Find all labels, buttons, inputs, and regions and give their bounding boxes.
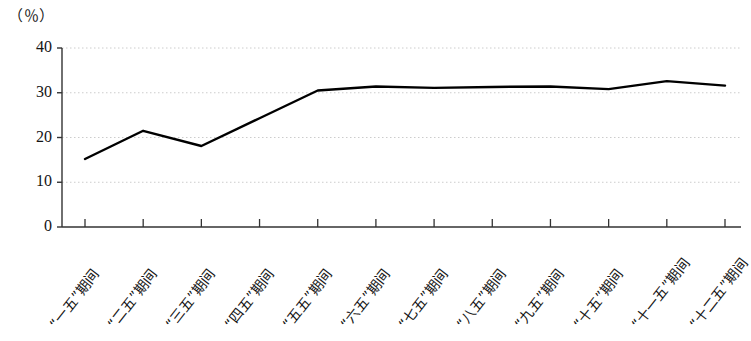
x-axis-ticks (85, 219, 725, 227)
data-series-line (85, 81, 725, 159)
gridlines (62, 48, 741, 182)
y-axis-ticks (57, 48, 62, 227)
